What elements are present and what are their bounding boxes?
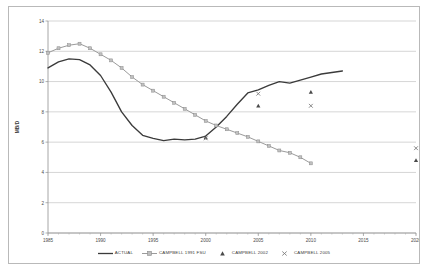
x-key-icon — [277, 250, 292, 257]
svg-text:2010: 2010 — [306, 238, 317, 243]
plot-background — [48, 21, 416, 233]
svg-text:MB/D: MB/D — [15, 120, 20, 133]
legend-label-actual: ACTUAL — [115, 251, 133, 255]
svg-text:0: 0 — [41, 231, 44, 236]
svg-text:10: 10 — [39, 79, 45, 84]
legend-item-campbell-1991-fsu: CAMPBELL 1991 FSU — [142, 250, 206, 257]
svg-text:2000: 2000 — [201, 238, 212, 243]
svg-text:2005: 2005 — [253, 238, 264, 243]
svg-text:12: 12 — [39, 49, 45, 54]
svg-text:1985: 1985 — [43, 238, 54, 243]
y-axis-title: MB/D — [15, 120, 20, 133]
svg-text:6: 6 — [41, 140, 44, 145]
line-square-key-icon — [142, 250, 157, 257]
svg-text:8: 8 — [41, 110, 44, 115]
triangle-key-icon — [215, 250, 230, 257]
svg-text:4: 4 — [41, 170, 44, 175]
svg-text:2: 2 — [41, 201, 44, 206]
legend-label-campbell-2005: CAMPBELL 2005 — [294, 251, 330, 255]
svg-text:2015: 2015 — [358, 238, 369, 243]
svg-text:1990: 1990 — [95, 238, 106, 243]
svg-text:2020: 2020 — [411, 238, 419, 243]
svg-text:14: 14 — [39, 19, 45, 24]
chart-legend: ACTUAL CAMPBELL 1991 FSU CAMPBELL 2002 — [9, 250, 419, 257]
chart-screenshot: 02468101214 1985199019952000200520102015… — [0, 0, 431, 274]
chart-plot: 02468101214 1985199019952000200520102015… — [9, 7, 419, 263]
svg-text:1995: 1995 — [148, 238, 159, 243]
figure-frame: 02468101214 1985199019952000200520102015… — [8, 6, 420, 264]
legend-item-actual: ACTUAL — [98, 250, 133, 257]
legend-label-campbell-1991-fsu: CAMPBELL 1991 FSU — [159, 251, 206, 255]
line-key-icon — [98, 250, 113, 257]
x-tick-marks — [48, 233, 416, 236]
legend-item-campbell-2002: CAMPBELL 2002 — [215, 250, 268, 257]
legend-label-campbell-2002: CAMPBELL 2002 — [232, 251, 268, 255]
legend-item-campbell-2005: CAMPBELL 2005 — [277, 250, 330, 257]
x-tick-labels: 19851990199520002005201020152020 — [43, 238, 419, 243]
